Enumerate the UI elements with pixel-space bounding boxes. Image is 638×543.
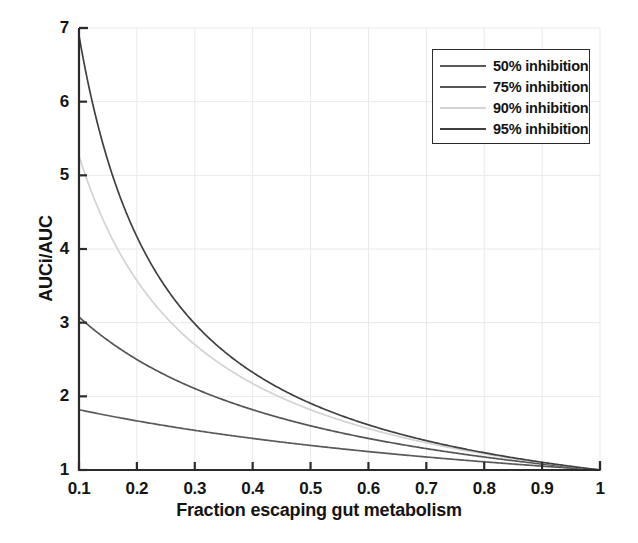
x-axis-title: Fraction escaping gut metabolism [0,500,638,521]
x-tick-label: 0.2 [126,479,149,499]
y-tick-label: 2 [21,386,69,406]
legend-label: 75% inhibition [493,79,588,95]
x-tick-label: 0.1 [68,479,91,499]
x-tick-label: 0.5 [299,479,322,499]
curve-75-inhibition [79,317,600,470]
legend-line-swatch [440,65,486,67]
y-tick-label: 6 [21,92,69,112]
x-tick-label: 0.6 [357,479,380,499]
legend-line-swatch [440,128,486,130]
x-tick-label: 0.8 [473,479,496,499]
legend-label: 95% inhibition [493,121,588,137]
legend-line-swatch [440,86,486,88]
x-tick-label: 0.3 [183,479,206,499]
curve-90-inhibition [79,156,600,470]
x-tick-label: 0.7 [415,479,438,499]
chart-figure: 1234567 0.10.20.30.40.50.60.70.80.91 AUC… [0,0,638,543]
x-tick-label: 0.9 [531,479,554,499]
legend-item[interactable]: 90% inhibition [433,97,589,118]
legend-label: 50% inhibition [493,58,588,74]
legend-item[interactable]: 75% inhibition [433,76,589,97]
legend-item[interactable]: 95% inhibition [433,118,589,139]
x-tick-label: 1 [595,479,604,499]
legend-line-swatch [440,107,486,109]
y-axis-title: AUCi/AUC [36,179,57,339]
legend-label: 90% inhibition [493,100,588,116]
x-tick-label: 0.4 [241,479,264,499]
legend-item[interactable]: 50% inhibition [433,55,589,76]
y-tick-label: 7 [21,18,69,38]
y-tick-label: 1 [21,460,69,480]
chart-legend: 50% inhibition75% inhibition90% inhibiti… [432,49,590,144]
